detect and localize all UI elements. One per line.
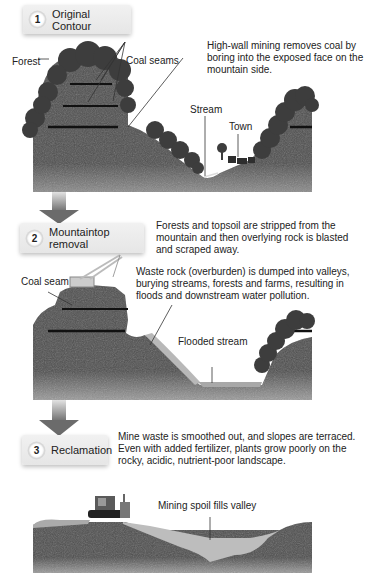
step-3-box: 3 Reclamation [22, 435, 108, 465]
label-forest: Forest [12, 56, 40, 68]
label-town: Town [229, 121, 252, 133]
step-2-box: 2 Mountaintop removal [20, 223, 144, 253]
step-3-number: 3 [29, 443, 44, 458]
bulldozer-icon [88, 494, 130, 518]
step-2-number: 2 [27, 231, 42, 246]
scene-3-reclamation [0, 480, 367, 574]
step-2-secondary-description: Waste rock (overburden) is dumped into v… [136, 266, 366, 302]
label-stream: Stream [190, 104, 222, 116]
step-3-description: Mine waste is smoothed out, and slopes a… [118, 431, 367, 467]
label-mining-spoil: Mining spoil fills valley [158, 500, 256, 512]
step-2-description: Forests and topsoil are stripped from th… [156, 220, 366, 256]
scene-1-original-contour [0, 0, 367, 200]
label-coal-seams: Coal seams [126, 55, 179, 67]
step-3-title: Reclamation [51, 444, 112, 456]
step-2-title: Mountaintop removal [49, 226, 144, 250]
flow-arrow-shaft [52, 400, 66, 422]
dragline-excavator [70, 255, 122, 287]
flooded-stream [198, 382, 262, 387]
label-coal-seam: Coal seam [21, 276, 69, 288]
label-flooded-stream: Flooded stream [178, 336, 247, 348]
town-buildings [228, 156, 255, 164]
step-1-description: High-wall mining removes coal by boring … [207, 40, 367, 76]
flow-arrow-shaft [52, 192, 66, 212]
